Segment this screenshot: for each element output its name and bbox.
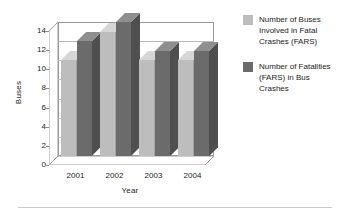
bar-2004-series2 bbox=[194, 51, 209, 156]
bar-top-face bbox=[100, 23, 115, 32]
legend-label: Number of Fatalities (FARS) in Bus Crash… bbox=[259, 61, 338, 94]
y-axis-tick-label: 2 bbox=[24, 142, 46, 150]
bar-side-face bbox=[209, 51, 218, 156]
bar-top-face bbox=[139, 51, 154, 60]
bar-front-face bbox=[77, 41, 92, 156]
x-axis-title: Year bbox=[50, 186, 210, 195]
bar-front-face bbox=[178, 60, 193, 156]
bar-2001-series1 bbox=[61, 60, 76, 156]
y-axis-tick-label: 8 bbox=[24, 84, 46, 92]
bar-2003-series1 bbox=[139, 60, 154, 156]
bar-2004-series1 bbox=[178, 60, 193, 156]
bar-front-face bbox=[61, 60, 76, 156]
legend-swatch-icon bbox=[243, 15, 253, 25]
y-axis-tick-mark bbox=[46, 108, 49, 109]
bar-top-face bbox=[155, 42, 170, 51]
y-axis-tick-label: 10 bbox=[24, 65, 46, 73]
chart-plot-region: Buses 02468101214 2001200220032004 Year bbox=[0, 0, 232, 200]
y-axis-tick-mark bbox=[46, 69, 49, 70]
bar-front-face bbox=[139, 60, 154, 156]
bar-2002-series1 bbox=[100, 32, 115, 156]
bar-2003-series2 bbox=[155, 51, 170, 156]
y-axis-tick-label: 6 bbox=[24, 104, 46, 112]
y-axis-tick-label: 0 bbox=[24, 161, 46, 169]
bar-front-face bbox=[100, 32, 115, 156]
y-axis-tick-mark bbox=[46, 146, 49, 147]
x-axis-tick-label: 2001 bbox=[56, 171, 96, 180]
bar-2002-series2 bbox=[116, 22, 131, 156]
bar-top-face bbox=[194, 42, 209, 51]
y-axis-tick-label: 12 bbox=[24, 46, 46, 54]
y-axis-tick-mark bbox=[46, 88, 49, 89]
bar-top-face bbox=[61, 51, 76, 60]
legend-entry-1: Number of Buses Involved in Fatal Crashe… bbox=[243, 14, 338, 47]
y-axis-tick-mark bbox=[46, 31, 49, 32]
x-axis-tick-label: 2002 bbox=[95, 171, 135, 180]
bar-2001-series2 bbox=[77, 41, 92, 156]
y-axis-tick-mark bbox=[46, 165, 49, 166]
y-axis-tick-label: 4 bbox=[24, 123, 46, 131]
legend-entry-2: Number of Fatalities (FARS) in Bus Crash… bbox=[243, 61, 338, 94]
x-axis-tick-label: 2003 bbox=[134, 171, 174, 180]
chart-figure: Buses 02468101214 2001200220032004 Year … bbox=[0, 0, 340, 213]
y-axis-tick-mark bbox=[46, 50, 49, 51]
bar-front-face bbox=[155, 51, 170, 156]
y-axis-tick-mark bbox=[46, 127, 49, 128]
footer-divider bbox=[18, 207, 332, 208]
bar-top-face bbox=[77, 32, 92, 41]
y-axis-tick-labels: 02468101214 bbox=[22, 0, 46, 200]
bar-front-face bbox=[194, 51, 209, 156]
chart-legend: Number of Buses Involved in Fatal Crashe… bbox=[243, 14, 338, 108]
x-axis-tick-label: 2004 bbox=[173, 171, 213, 180]
bar-front-face bbox=[116, 22, 131, 156]
bar-top-face bbox=[116, 13, 131, 22]
legend-swatch-icon bbox=[243, 62, 253, 72]
y-axis-tick-label: 14 bbox=[24, 27, 46, 35]
legend-label: Number of Buses Involved in Fatal Crashe… bbox=[259, 14, 338, 47]
bar-top-face bbox=[178, 51, 193, 60]
bar-group bbox=[49, 22, 214, 165]
